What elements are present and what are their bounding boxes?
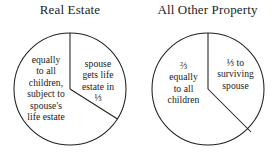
slice-label-spouse-real-estate: spouse gets life estate in ⅓ — [71, 58, 125, 104]
panel-real-estate: Real Estate equally to all children, sub… — [0, 0, 140, 154]
slice-label-spouse-all-other-property: ⅓ to surviving spouse — [208, 57, 264, 91]
panel-all-other-property: All Other Property ⅔ equally to all chil… — [138, 0, 277, 154]
slice-label-children-real-estate: equally to all children, subject to spou… — [15, 54, 77, 122]
slice-label-children-all-other-property: ⅔ equally to all children — [156, 60, 212, 106]
panel-title-all-other-property: All Other Property — [138, 2, 277, 17]
pie-divider-lower-right-all-other-property — [208, 89, 251, 132]
panel-title-real-estate: Real Estate — [0, 2, 140, 17]
pie-chart-real-estate: equally to all children, subject to spou… — [13, 32, 127, 146]
pie-chart-all-other-property: ⅔ equally to all children ⅓ to surviving… — [151, 32, 265, 146]
inheritance-distribution-figure: Real Estate equally to all children, sub… — [0, 0, 277, 154]
